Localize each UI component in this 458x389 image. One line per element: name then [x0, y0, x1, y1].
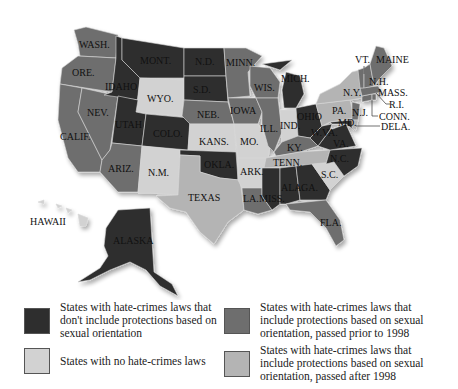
- label-miss: MISS.: [259, 193, 285, 204]
- label-va: VA.: [333, 138, 349, 149]
- label-ny: N.Y.: [343, 87, 361, 98]
- label-fla: FLA.: [320, 217, 341, 228]
- label-nj: N.J.: [352, 107, 368, 118]
- label-colo: COLO.: [153, 128, 183, 139]
- label-ohio: OHIO: [297, 111, 322, 122]
- label-mo: MO.: [240, 136, 259, 147]
- label-nm: N.M.: [148, 167, 169, 178]
- state-ri: [372, 94, 376, 100]
- label-nev: NEV.: [87, 107, 109, 118]
- legend-label: States with hate-crimes laws that includ…: [260, 344, 440, 383]
- label-conn: CONN.: [379, 111, 410, 122]
- label-minn: MINN.: [226, 57, 255, 68]
- legend-label: States with no hate-crimes laws: [60, 355, 220, 368]
- legend-label: States with hate-crimes laws that includ…: [260, 301, 440, 340]
- label-texas: TEXAS: [188, 192, 220, 203]
- label-alaska: ALASKA: [113, 235, 154, 246]
- label-wyo: WYO.: [147, 93, 173, 104]
- label-okla: OKLA.: [204, 159, 234, 170]
- state-alaska: [78, 208, 178, 296]
- legend-swatch-light-medium: [224, 351, 250, 377]
- label-neb: NEB.: [197, 109, 220, 120]
- label-md: MD.: [338, 117, 357, 128]
- label-calif: CALIF.: [60, 131, 91, 142]
- label-ariz: ARIZ.: [108, 163, 134, 174]
- label-nd: N.D.: [195, 56, 214, 67]
- legend: States with hate-crimes laws that don't …: [0, 296, 458, 389]
- label-idaho: IDAHO: [105, 81, 137, 92]
- label-ky: KY.: [287, 142, 303, 153]
- label-mont: MONT.: [140, 55, 171, 66]
- label-dela: DELA.: [381, 121, 410, 132]
- legend-item-prior-1998: States with hate-crimes laws that includ…: [224, 301, 440, 340]
- label-ore: ORE.: [72, 67, 95, 78]
- label-hawaii: HAWAII: [30, 216, 66, 227]
- label-sc: S.C.: [321, 169, 338, 180]
- label-mich: MICH.: [281, 73, 310, 84]
- label-tenn: TENN.: [273, 157, 302, 168]
- legend-item-none: States with no hate-crimes laws: [24, 348, 220, 374]
- label-nc: N.C.: [330, 153, 349, 164]
- legend-swatch-light: [24, 348, 50, 374]
- label-maine: MAINE: [376, 54, 409, 65]
- label-wva: W.VA.: [311, 127, 338, 138]
- label-iowa: IOWA: [230, 105, 257, 116]
- label-ri: R.I.: [389, 99, 404, 110]
- label-kans: KANS.: [199, 136, 229, 147]
- label-wash: WASH.: [79, 39, 110, 50]
- label-ill: ILL.: [260, 123, 278, 134]
- label-wis: WIS.: [254, 82, 275, 93]
- label-nh: N.H.: [369, 76, 388, 87]
- us-hate-crimes-map: WASH. ORE. CALIF. NEV. IDAHO MONT. WYO. …: [0, 0, 458, 300]
- label-mass: MASS.: [378, 87, 408, 98]
- legend-item-no-protection: States with hate-crimes laws that don't …: [24, 301, 220, 340]
- legend-item-after-1998: States with hate-crimes laws that includ…: [224, 344, 440, 383]
- legend-swatch-dark: [24, 308, 50, 334]
- legend-label: States with hate-crimes laws that don't …: [60, 301, 220, 340]
- label-pa: PA.: [332, 105, 346, 116]
- label-ga: GA.: [301, 182, 318, 193]
- label-vt: VT.: [355, 54, 370, 65]
- legend-swatch-medium: [224, 308, 250, 334]
- label-la: LA.: [243, 193, 259, 204]
- label-utah: UTAH: [115, 119, 142, 130]
- label-ark: ARK.: [240, 166, 264, 177]
- label-sd: S.D.: [193, 84, 211, 95]
